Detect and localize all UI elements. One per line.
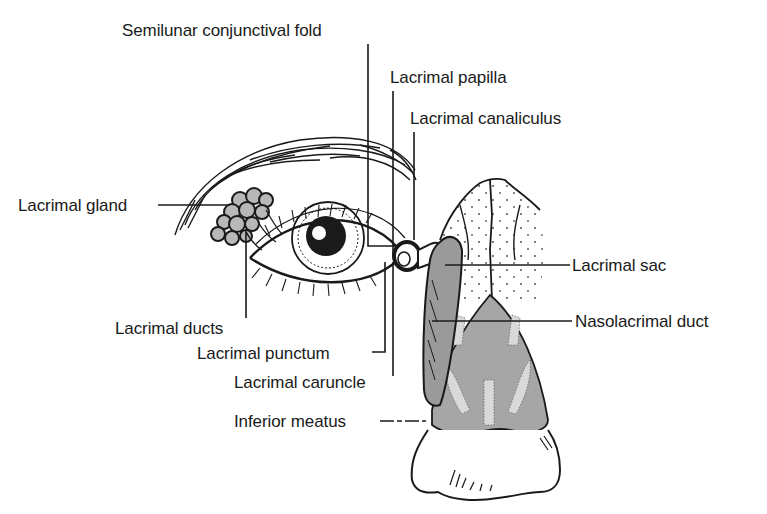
nose-ala (412, 430, 560, 500)
label-lacrimal-punctum: Lacrimal punctum (197, 345, 330, 362)
pupil-highlight (312, 226, 326, 240)
label-nasolacrimal-duct: Nasolacrimal duct (575, 313, 708, 330)
label-semilunar-conjunctival-fold: Semilunar conjunctival fold (122, 22, 322, 39)
label-lacrimal-gland: Lacrimal gland (18, 197, 127, 214)
label-lacrimal-canaliculus: Lacrimal canaliculus (410, 110, 561, 127)
label-lacrimal-caruncle: Lacrimal caruncle (234, 374, 366, 391)
eyebrow (175, 138, 416, 235)
label-lacrimal-ducts: Lacrimal ducts (115, 320, 223, 337)
pupil (306, 216, 346, 256)
label-lacrimal-sac: Lacrimal sac (572, 257, 666, 274)
label-lacrimal-papilla: Lacrimal papilla (390, 69, 507, 86)
label-inferior-meatus: Inferior meatus (234, 413, 346, 430)
